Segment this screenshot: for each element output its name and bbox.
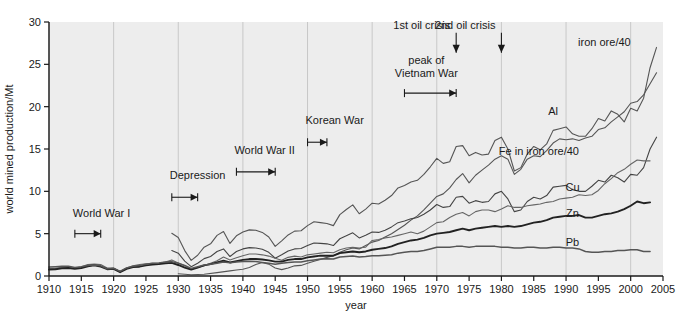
series-label-fe-in-iron-ore-40: Fe in iron ore/40 xyxy=(499,145,579,157)
x-tick-label-1965: 1965 xyxy=(392,283,416,295)
series-label-al: Al xyxy=(548,105,558,117)
x-tick-label-1990: 1990 xyxy=(554,283,578,295)
x-tick-label-1960: 1960 xyxy=(360,283,384,295)
annotation-peak-of-vietnam-war-label: peak of xyxy=(408,54,445,66)
x-tick-label-1995: 1995 xyxy=(586,283,610,295)
series-label-iron-ore-40: iron ore/40 xyxy=(578,36,631,48)
x-tick-label-1985: 1985 xyxy=(521,283,545,295)
x-tick-label-1955: 1955 xyxy=(328,283,352,295)
x-tick-label-1950: 1950 xyxy=(295,283,319,295)
x-tick-label-1915: 1915 xyxy=(69,283,93,295)
series-label-cu: Cu xyxy=(565,181,579,193)
x-tick-label-1980: 1980 xyxy=(489,283,513,295)
y-tick-label-15: 15 xyxy=(29,143,41,155)
x-tick-label-1910: 1910 xyxy=(37,283,61,295)
x-tick-label-1935: 1935 xyxy=(198,283,222,295)
x-tick-label-1975: 1975 xyxy=(457,283,481,295)
x-tick-label-1940: 1940 xyxy=(231,283,255,295)
x-tick-label-1945: 1945 xyxy=(263,283,287,295)
y-axis-title: world mined production/Mt xyxy=(3,84,15,214)
y-tick-label-30: 30 xyxy=(29,16,41,28)
y-tick-label-20: 20 xyxy=(29,101,41,113)
x-tick-label-2000: 2000 xyxy=(618,283,642,295)
y-tick-label-10: 10 xyxy=(29,185,41,197)
x-tick-label-1925: 1925 xyxy=(134,283,158,295)
x-axis-title: year xyxy=(345,299,367,311)
x-tick-label-1920: 1920 xyxy=(101,283,125,295)
annotation-2nd-oil-crisis-label: 2nd oil crisis xyxy=(435,19,496,31)
y-tick-label-0: 0 xyxy=(35,270,41,282)
annotation-world-war-ii-label: World War II xyxy=(234,144,295,156)
chart-figure: 0510152025301910191519201925193019351940… xyxy=(0,0,686,318)
series-label-pb: Pb xyxy=(566,236,579,248)
x-tick-label-2005: 2005 xyxy=(651,283,675,295)
annotation-peak-of-vietnam-war-label: Vietnam War xyxy=(395,67,458,79)
y-tick-label-5: 5 xyxy=(35,228,41,240)
series-label-zn: Zn xyxy=(566,207,579,219)
y-tick-label-25: 25 xyxy=(29,58,41,70)
x-tick-label-1970: 1970 xyxy=(425,283,449,295)
annotation-depression-label: Depression xyxy=(170,169,226,181)
world-mined-production-line-chart: 0510152025301910191519201925193019351940… xyxy=(0,0,686,318)
annotation-world-war-i-label: World War I xyxy=(73,207,130,219)
x-tick-label-1930: 1930 xyxy=(166,283,190,295)
annotation-korean-war-label: Korean War xyxy=(306,114,365,126)
